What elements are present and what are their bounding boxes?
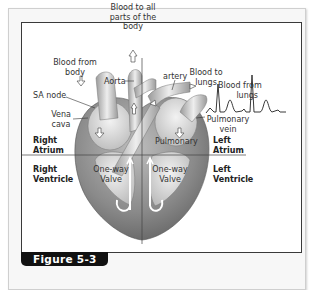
label-line: body: [103, 22, 163, 32]
label-artery: artery: [163, 72, 187, 82]
label-pulmonary: Pulmonary: [155, 137, 198, 147]
label-one-way-valve-right: One-way Valve: [93, 165, 129, 184]
label-blood-from-lungs: Blood from lungs: [218, 81, 258, 100]
label-line: Right: [33, 165, 73, 175]
label-line: Vena: [48, 110, 74, 120]
label-line: Blood to: [188, 68, 224, 78]
label-line: Blood from: [50, 58, 100, 68]
label-aorta: Aorta: [104, 77, 126, 87]
label-line: lungs: [218, 91, 258, 101]
label-right-atrium: Right Atrium: [33, 136, 64, 155]
aorta-vessel: [128, 70, 142, 132]
label-pulmonary-vein: Pulmonary vein: [205, 115, 251, 134]
label-left-atrium: Left Atrium: [213, 136, 244, 155]
label-line: parts of the: [103, 13, 163, 23]
label-line: Blood to all: [103, 3, 163, 13]
arrow-up-icon: [129, 50, 137, 62]
label-line: Pulmonary: [205, 115, 251, 125]
label-blood-from-body: Blood from body: [50, 58, 100, 77]
label-line: Atrium: [33, 146, 64, 156]
arrow-down-icon: [77, 76, 85, 86]
label-line: Blood from: [218, 81, 258, 91]
label-line: Left: [213, 165, 253, 175]
label-blood-to-all-parts: Blood to all parts of the body: [103, 3, 163, 32]
label-line: Atrium: [213, 146, 244, 156]
label-vena-cava: Vena cava: [48, 110, 74, 129]
label-line: cava: [48, 120, 74, 130]
label-line: Valve: [93, 175, 129, 185]
label-line: Valve: [152, 175, 188, 185]
label-line: One-way: [152, 165, 188, 175]
label-left-ventricle: Left Ventricle: [213, 165, 253, 184]
label-line: Left: [213, 136, 244, 146]
label-line: Right: [33, 136, 64, 146]
label-sa-node: SA node: [33, 91, 66, 101]
label-line: vein: [205, 125, 251, 135]
label-line: Ventricle: [33, 175, 73, 185]
label-right-ventricle: Right Ventricle: [33, 165, 73, 184]
label-one-way-valve-left: One-way Valve: [152, 165, 188, 184]
label-line: Ventricle: [213, 175, 253, 185]
label-line: One-way: [93, 165, 129, 175]
figure-caption-tab: Figure 5-3: [21, 252, 108, 266]
label-line: body: [50, 68, 100, 78]
